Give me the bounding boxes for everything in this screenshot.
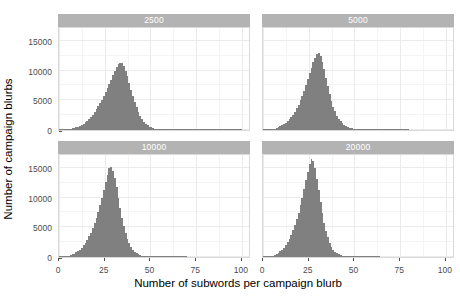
- plot-area: [58, 154, 250, 258]
- facet-histogram-figure: Number of campaign blurbs 05000100001500…: [0, 0, 460, 298]
- histogram-bars: [59, 28, 249, 130]
- x-tick-label: 25: [296, 266, 320, 275]
- y-tick-label: 15000: [8, 165, 52, 174]
- histogram-bars: [263, 28, 453, 130]
- x-tick-mark: [353, 258, 354, 261]
- x-axis-title: Number of subwords per campaign blurb: [16, 277, 460, 289]
- x-tick-mark: [149, 258, 150, 261]
- facet-strip-label: 2500: [144, 16, 164, 25]
- histogram-bar: [214, 129, 223, 130]
- x-tick-mark: [104, 258, 105, 261]
- facet-panel-5000: 5000: [262, 14, 454, 131]
- x-axis-tick-labels: 02550751000255075100: [0, 262, 460, 276]
- plot-area: [262, 27, 454, 131]
- y-tick-label: 0: [8, 127, 52, 136]
- x-tick-mark: [308, 258, 309, 261]
- panel-row: 1000020000: [58, 141, 454, 258]
- x-tick-mark: [58, 258, 59, 261]
- facet-panel-10000: 10000: [58, 141, 250, 258]
- x-tick-label: 50: [341, 266, 365, 275]
- x-tick-mark: [445, 258, 446, 261]
- panel-grid: 250050001000020000: [58, 14, 454, 258]
- y-tick-label: 15000: [8, 38, 52, 47]
- histogram-bar: [224, 129, 233, 130]
- histogram-bar: [187, 129, 196, 130]
- x-tick-mark: [399, 258, 400, 261]
- panel-row: 25005000: [58, 14, 454, 131]
- histogram-bar: [376, 256, 380, 257]
- histogram-bar: [233, 129, 242, 130]
- x-tick-label: 50: [137, 266, 161, 275]
- y-tick-label: 5000: [8, 97, 52, 106]
- y-axis-tick-labels: 050001000015000050001000015000: [6, 0, 52, 298]
- facet-strip-20000: 20000: [262, 141, 454, 154]
- facet-panel-2500: 2500: [58, 14, 250, 131]
- histogram-bar: [205, 129, 214, 130]
- facet-strip-label: 5000: [348, 16, 368, 25]
- histogram-bar: [400, 129, 409, 130]
- histogram-bars: [263, 155, 453, 257]
- y-tick-mark: [59, 258, 62, 259]
- histogram-bar: [196, 129, 205, 130]
- x-tick-mark: [241, 258, 242, 261]
- facet-strip-5000: 5000: [262, 14, 454, 27]
- plot-area: [262, 154, 454, 258]
- facet-strip-label: 10000: [142, 143, 167, 152]
- x-tick-label: 75: [183, 266, 207, 275]
- y-tick-label: 10000: [8, 68, 52, 77]
- x-tick-label: 100: [433, 266, 457, 275]
- x-tick-mark: [262, 258, 263, 261]
- histogram-bar: [183, 256, 187, 257]
- x-tick-label: 0: [250, 266, 274, 275]
- histogram-bar: [391, 129, 400, 130]
- x-tick-mark: [195, 258, 196, 261]
- x-tick-label: 75: [387, 266, 411, 275]
- facet-panel-20000: 20000: [262, 141, 454, 258]
- histogram-bars: [59, 155, 249, 257]
- y-tick-label: 10000: [8, 195, 52, 204]
- x-tick-label: 0: [46, 266, 70, 275]
- facet-strip-2500: 2500: [58, 14, 250, 27]
- facet-strip-10000: 10000: [58, 141, 250, 154]
- y-tick-label: 5000: [8, 224, 52, 233]
- plot-area: [58, 27, 250, 131]
- facet-strip-label: 20000: [346, 143, 371, 152]
- x-tick-label: 25: [92, 266, 116, 275]
